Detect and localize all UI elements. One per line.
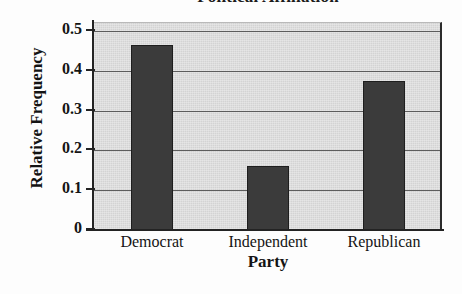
bar-democrat[interactable] [131, 45, 173, 230]
y-axis-tick-label: 0.5 [42, 21, 82, 37]
bar-independent[interactable] [247, 166, 289, 230]
gridline [94, 31, 440, 32]
y-axis-tick [86, 148, 95, 150]
y-axis-tick-label: 0.4 [42, 61, 82, 77]
y-axis-line [92, 20, 94, 231]
x-axis-label-republican: Republican [324, 232, 444, 252]
y-axis-tick [86, 109, 95, 111]
x-axis-title: Party [94, 252, 442, 272]
y-axis-tick-label: 0.1 [42, 180, 82, 196]
y-axis-tick-label: 0 [42, 220, 82, 236]
plot-area [94, 22, 442, 229]
y-axis-tick [86, 69, 95, 71]
y-axis-tick [86, 188, 95, 190]
bar-republican[interactable] [363, 81, 405, 230]
chart-title: Political Affiliation [94, 0, 442, 2]
x-axis-label-independent: Independent [208, 232, 328, 252]
y-axis-tick [86, 29, 95, 31]
y-axis-tick-label: 0.2 [42, 140, 82, 156]
x-axis-label-democrat: Democrat [92, 232, 212, 252]
y-axis-tick-label: 0.3 [42, 101, 82, 117]
y-axis-tick [86, 228, 95, 230]
x-axis-line [86, 229, 444, 231]
y-axis-tick-labels: 00.10.20.30.40.5 [38, 0, 82, 294]
bar-chart-figure: Political Affiliation Relative Frequency… [0, 0, 462, 294]
